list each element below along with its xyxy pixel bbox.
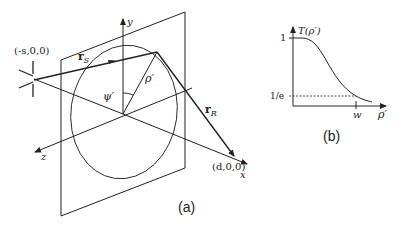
transmission-curve bbox=[293, 38, 372, 102]
receiver-point-text: (d,0,0) bbox=[212, 161, 245, 172]
radius-label: ρ′ bbox=[144, 72, 154, 85]
vector-rr bbox=[157, 52, 234, 156]
panel-a-labels: y x z (-s,0,0) (d,0,0) rS rR ρ′ ψ′ (a) bbox=[14, 16, 246, 215]
tick-one-over-e-label: 1/e bbox=[270, 91, 284, 101]
vector-rs bbox=[34, 52, 157, 80]
vector-rs-subscript: S bbox=[84, 56, 90, 65]
y-axis-label: y bbox=[126, 16, 133, 27]
angle-label: ψ′ bbox=[103, 90, 115, 103]
angle-arc bbox=[123, 93, 133, 95]
panel-a-caption: (a) bbox=[178, 199, 195, 215]
tick-one-label: 1 bbox=[280, 32, 286, 43]
tick-w-label: w bbox=[353, 109, 362, 120]
source-slit-icon bbox=[19, 61, 33, 97]
t-axis-label: T(ρ′) bbox=[298, 25, 321, 36]
z-axis-label: z bbox=[40, 151, 47, 162]
vector-rs-label: rS bbox=[78, 50, 90, 65]
vector-rr-label: rR bbox=[205, 103, 217, 118]
diagram-canvas: y x z (-s,0,0) (d,0,0) rS rR ρ′ ψ′ (a) T… bbox=[0, 0, 401, 226]
rho-axis-label: ρ′ bbox=[377, 108, 387, 121]
source-point-label: (-s,0,0) bbox=[14, 45, 49, 56]
receiver-point-label: (d,0,0) bbox=[212, 161, 245, 172]
vector-rr-subscript: R bbox=[210, 109, 217, 118]
panel-b-labels: T(ρ′) 1 1/e w ρ′ (b) bbox=[270, 25, 387, 144]
panel-b-caption: (b) bbox=[323, 128, 340, 144]
source-point-text: (-s,0,0) bbox=[14, 45, 49, 56]
panel-b bbox=[289, 27, 386, 109]
